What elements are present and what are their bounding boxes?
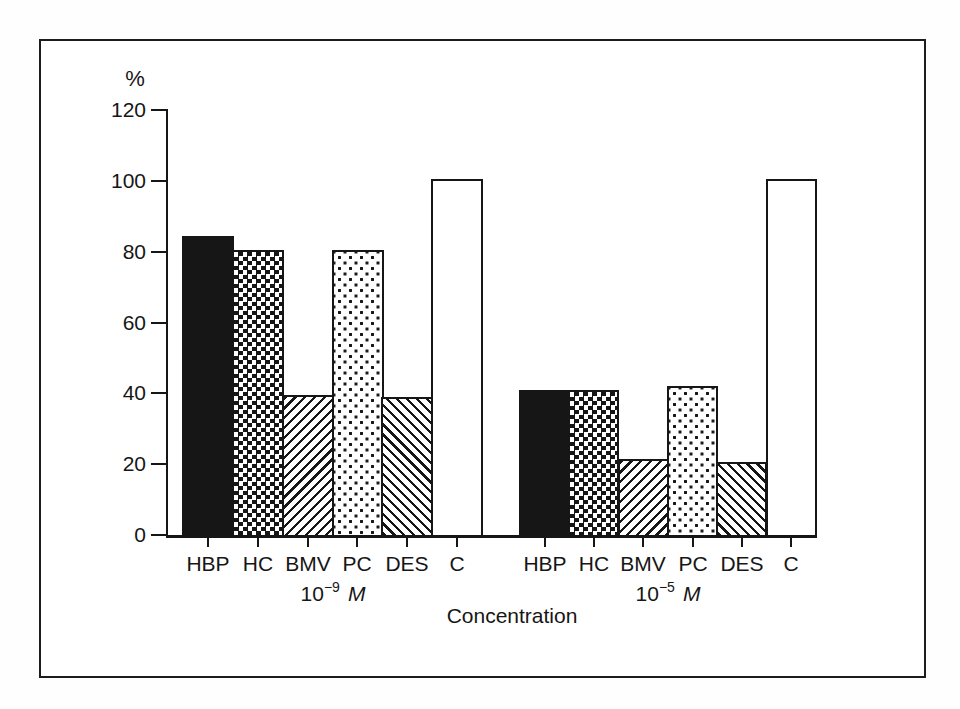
bar-conc-1e-5-des bbox=[716, 462, 767, 537]
bar-conc-1e-5-c bbox=[766, 179, 817, 537]
x-axis-tick bbox=[257, 538, 259, 547]
bar-conc-1e-9-hbp bbox=[182, 236, 234, 537]
y-axis-tick-label: 100 bbox=[56, 169, 146, 193]
concentration-exponent: −9 bbox=[324, 579, 340, 595]
concentration-unit: M bbox=[683, 582, 701, 605]
y-axis-tick bbox=[151, 534, 167, 536]
x-axis-tick bbox=[790, 538, 792, 547]
x-axis-tick bbox=[544, 538, 546, 547]
y-axis-tick bbox=[151, 463, 167, 465]
y-axis-unit-label: % bbox=[112, 66, 158, 92]
x-axis-tick bbox=[356, 538, 358, 547]
x-axis-category-label: C bbox=[756, 552, 826, 576]
x-axis-tick bbox=[207, 538, 209, 547]
y-axis-tick-label: 120 bbox=[56, 98, 146, 122]
y-axis-tick-label: 40 bbox=[56, 381, 146, 405]
x-axis-tick bbox=[456, 538, 458, 547]
y-axis-tick bbox=[151, 322, 167, 324]
x-axis-tick bbox=[692, 538, 694, 547]
y-axis-tick-label: 80 bbox=[56, 240, 146, 264]
concentration-base: 10 bbox=[636, 582, 659, 605]
group-concentration-label: 10−9M bbox=[243, 580, 423, 606]
bar-conc-1e-5-hc bbox=[568, 390, 619, 537]
bar-conc-1e-9-c bbox=[431, 179, 483, 537]
y-axis-tick bbox=[151, 109, 167, 111]
bar-conc-1e-5-hbp bbox=[519, 390, 570, 537]
concentration-exponent: −5 bbox=[659, 579, 675, 595]
bar-conc-1e-9-bmv bbox=[282, 395, 334, 537]
y-axis-tick-label: 60 bbox=[56, 311, 146, 335]
x-axis-tick bbox=[406, 538, 408, 547]
x-axis-tick bbox=[593, 538, 595, 547]
concentration-unit: M bbox=[348, 582, 366, 605]
y-axis-tick bbox=[151, 392, 167, 394]
bar-conc-1e-5-pc bbox=[667, 386, 718, 537]
x-axis-title: Concentration bbox=[412, 604, 612, 628]
concentration-base: 10 bbox=[301, 582, 324, 605]
bar-conc-1e-9-hc bbox=[232, 250, 284, 537]
y-axis-tick-label: 0 bbox=[56, 523, 146, 547]
bar-conc-1e-9-pc bbox=[332, 250, 384, 537]
bar-conc-1e-9-des bbox=[381, 397, 433, 537]
y-axis-tick-label: 20 bbox=[56, 452, 146, 476]
x-axis-tick bbox=[307, 538, 309, 547]
x-axis-tick bbox=[642, 538, 644, 547]
bar-conc-1e-5-bmv bbox=[618, 459, 669, 537]
y-axis-tick bbox=[151, 251, 167, 253]
y-axis-tick bbox=[151, 180, 167, 182]
x-axis-category-label: C bbox=[422, 552, 492, 576]
x-axis-tick bbox=[741, 538, 743, 547]
figure-page: % 020406080100120HBPHCBMVPCDESC10−9MHBPH… bbox=[0, 0, 960, 709]
group-concentration-label: 10−5M bbox=[578, 580, 758, 606]
